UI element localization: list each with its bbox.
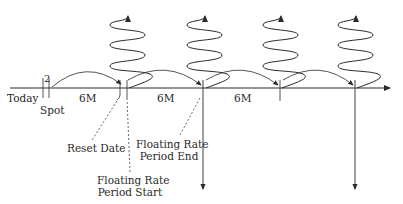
arc-spot xyxy=(52,72,121,87)
period-end-label: Floating Rate Period End xyxy=(136,138,202,162)
period-end-line1: Floating Rate xyxy=(136,138,202,150)
spiral-4 xyxy=(338,16,380,88)
spiral-3 xyxy=(263,16,305,88)
spot-lag-label: 2 xyxy=(44,73,50,85)
spot-label: Spot xyxy=(40,104,64,116)
period-label-2: 6M xyxy=(157,92,174,104)
today-label: Today xyxy=(7,92,38,104)
period-end-line2: Period End xyxy=(136,150,202,162)
period-label-1: 6M xyxy=(79,92,96,104)
period-start-leader xyxy=(127,98,130,172)
period-start-line2: Period Start xyxy=(97,186,163,198)
reset-date-leader xyxy=(92,101,117,140)
period-start-line1: Floating Rate xyxy=(97,174,163,186)
period-end-leader xyxy=(180,98,200,135)
reset-date-label: Reset Date xyxy=(67,142,125,154)
spiral-1 xyxy=(110,16,152,88)
period-label-3: 6M xyxy=(234,92,251,104)
spiral-2 xyxy=(187,16,229,88)
period-start-label: Floating Rate Period Start xyxy=(97,174,163,198)
swap-timeline-diagram xyxy=(0,0,403,204)
